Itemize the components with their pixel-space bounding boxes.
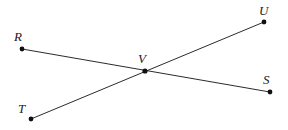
point-label-t: T	[18, 102, 25, 115]
point-label-s: S	[263, 73, 270, 86]
point-marker-s	[268, 90, 273, 95]
geometry-figure: R U V S T	[0, 0, 288, 130]
point-label-r: R	[14, 30, 22, 43]
point-marker-t	[29, 117, 34, 122]
point-marker-r	[20, 47, 25, 52]
point-label-v: V	[138, 52, 146, 65]
point-marker-v	[142, 68, 147, 73]
point-label-u: U	[259, 4, 268, 17]
point-marker-u	[262, 20, 267, 25]
